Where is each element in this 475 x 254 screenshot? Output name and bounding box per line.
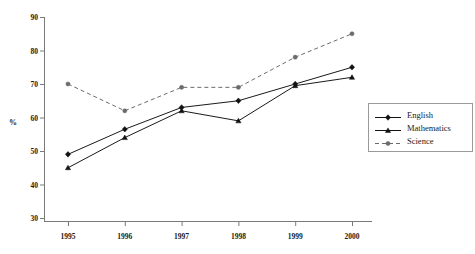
y-tick-label: 80 bbox=[31, 47, 39, 56]
x-tick-label: 1997 bbox=[174, 232, 189, 241]
triangle-marker-icon bbox=[373, 122, 403, 133]
chart-legend: EnglishMathematicsScience bbox=[368, 103, 473, 152]
triangle-marker-icon bbox=[349, 75, 354, 80]
circle-marker-icon bbox=[66, 82, 70, 86]
circle-marker-icon bbox=[373, 135, 403, 146]
y-tick-label: 50 bbox=[31, 147, 39, 156]
x-tick-label: 1996 bbox=[117, 232, 132, 241]
triangle-marker-icon bbox=[122, 135, 127, 140]
y-tick-label: 40 bbox=[31, 181, 39, 190]
diamond-marker-icon bbox=[236, 98, 241, 104]
triangle-marker-icon bbox=[65, 165, 70, 170]
diamond-marker-icon bbox=[65, 152, 70, 158]
series-science bbox=[66, 32, 354, 113]
y-tick-label: 30 bbox=[31, 214, 39, 223]
circle-marker-icon bbox=[293, 55, 297, 59]
x-tick-label: 2000 bbox=[345, 232, 360, 241]
x-axis-ticks: 199519961997199819992000 bbox=[61, 222, 360, 242]
legend-label: Mathematics bbox=[407, 123, 451, 133]
legend-item-english[interactable]: English bbox=[373, 108, 472, 121]
line-chart-figure: 30405060708090 199519961997199819992000 … bbox=[0, 0, 475, 254]
data-series-group bbox=[65, 32, 354, 170]
x-tick-label: 1998 bbox=[231, 232, 246, 241]
series-line bbox=[68, 67, 352, 154]
series-english bbox=[65, 64, 354, 157]
y-tick-label: 70 bbox=[31, 80, 39, 89]
x-tick-label: 1995 bbox=[61, 232, 76, 241]
circle-marker-icon bbox=[386, 141, 390, 145]
diamond-marker-icon bbox=[349, 64, 354, 70]
legend-item-science[interactable]: Science bbox=[373, 134, 472, 147]
diamond-marker-icon bbox=[373, 109, 403, 120]
y-axis-title: % bbox=[9, 118, 17, 127]
axes-group bbox=[45, 17, 373, 222]
legend-item-mathematics[interactable]: Mathematics bbox=[373, 121, 472, 134]
triangle-marker-icon bbox=[179, 108, 184, 113]
x-tick-label: 1999 bbox=[288, 232, 303, 241]
series-line bbox=[68, 77, 352, 167]
y-axis-ticks: 30405060708090 bbox=[31, 13, 45, 223]
circle-marker-icon bbox=[180, 85, 184, 89]
circle-marker-icon bbox=[123, 109, 127, 113]
y-tick-label: 60 bbox=[31, 114, 39, 123]
diamond-marker-icon bbox=[385, 115, 390, 121]
circle-marker-icon bbox=[236, 85, 240, 89]
series-line bbox=[68, 34, 352, 111]
y-tick-label: 90 bbox=[31, 13, 39, 22]
series-mathematics bbox=[65, 75, 354, 170]
diamond-marker-icon bbox=[122, 126, 127, 132]
legend-label: Science bbox=[407, 136, 433, 146]
legend-label: English bbox=[407, 110, 433, 120]
circle-marker-icon bbox=[350, 32, 354, 36]
